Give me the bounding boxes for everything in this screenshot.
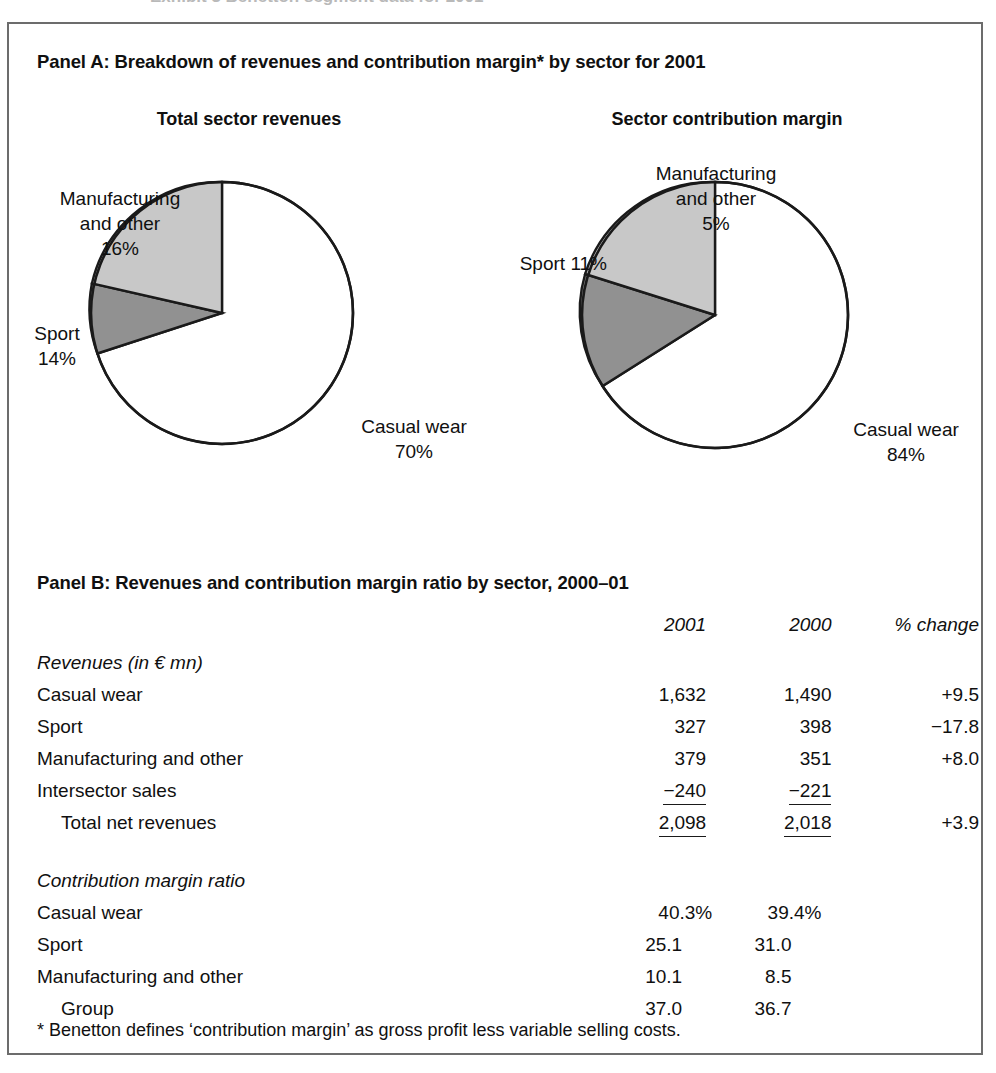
section-header-contribution-margin-ratio: Contribution margin ratio xyxy=(9,870,985,902)
pie-label-casual-wear-left: Casual wear 70% xyxy=(339,414,489,464)
table-row: Casual wear 40.3% 39.4% xyxy=(9,902,985,934)
row-label-casual-wear-cmr: Casual wear xyxy=(9,902,603,934)
pie-chart-sector-contribution-margin: Sector contribution margin Manufacturing… xyxy=(489,109,985,529)
table-row: Sport 327 398 −17.8 xyxy=(9,716,985,748)
segment-data-table: 2001 2000 % change Revenues (in € mn) Ca… xyxy=(9,614,985,1030)
cell-casual-wear-change: +9.5 xyxy=(837,684,985,716)
panel-b-table-area: 2001 2000 % change Revenues (in € mn) Ca… xyxy=(9,614,985,1030)
pie-label-line-1: Casual wear xyxy=(831,417,981,442)
section-label-revenues: Revenues (in € mn) xyxy=(9,652,603,684)
cell-manufacturing-cmr-2001: 10.1 xyxy=(603,966,712,998)
table-row: Manufacturing and other 10.1 8.5 xyxy=(9,966,985,998)
cell-casual-wear-cmr-2001: 40.3% xyxy=(603,902,712,934)
row-label-manufacturing-cmr: Manufacturing and other xyxy=(9,966,603,998)
table-spacer-row xyxy=(9,844,985,870)
cell-total-net-revenues-change: +3.9 xyxy=(837,812,985,844)
column-header-blank xyxy=(9,614,603,652)
cell-manufacturing-change: +8.0 xyxy=(837,748,985,780)
cell-intersector-2001: −240 xyxy=(603,780,712,812)
row-label-casual-wear-revenue: Casual wear xyxy=(9,684,603,716)
cell-casual-wear-2001: 1,632 xyxy=(603,684,712,716)
cell-manufacturing-cmr-2000: 8.5 xyxy=(712,966,837,998)
pie-label-sport-right: Sport 11% xyxy=(459,251,607,276)
pie-label-line-3: 16% xyxy=(15,236,225,261)
pie-label-casual-wear-right: Casual wear 84% xyxy=(831,417,981,467)
column-header-percent-change: % change xyxy=(837,614,985,652)
cell-value: −221 xyxy=(789,780,832,805)
cell-total-net-revenues-2001: 2,098 xyxy=(603,812,712,844)
pie-label-line-1: Casual wear xyxy=(339,414,489,439)
table-header-row: 2001 2000 % change xyxy=(9,614,985,652)
cell-sport-2001: 327 xyxy=(603,716,712,748)
cell-manufacturing-2000: 351 xyxy=(712,748,837,780)
pie-title-sector-contribution-margin: Sector contribution margin xyxy=(479,109,975,130)
pie-label-sport-left: Sport 14% xyxy=(5,321,109,371)
column-header-2000: 2000 xyxy=(712,614,837,652)
pie-label-line-2: 14% xyxy=(5,346,109,371)
pie-label-line-1: Sport 11% xyxy=(459,251,607,276)
cell-sport-cmr-2001: 25.1 xyxy=(603,934,712,966)
pie-label-line-2: and other xyxy=(611,186,821,211)
exhibit-frame: Panel A: Breakdown of revenues and contr… xyxy=(7,22,983,1055)
pie-label-manufacturing-and-other-left: Manufacturing and other 16% xyxy=(15,186,225,261)
row-label-manufacturing-revenue: Manufacturing and other xyxy=(9,748,603,780)
cell-intersector-2000: −221 xyxy=(712,780,837,812)
cell-value: −240 xyxy=(663,780,706,805)
cell-sport-cmr-2000: 31.0 xyxy=(712,934,837,966)
table-row-total: Total net revenues 2,098 2,018 +3.9 xyxy=(9,812,985,844)
cell-sport-change: −17.8 xyxy=(837,716,985,748)
cell-intersector-change xyxy=(837,780,985,812)
row-label-intersector-sales: Intersector sales xyxy=(9,780,603,812)
table-row: Intersector sales −240 −221 xyxy=(9,780,985,812)
pie-chart-total-sector-revenues: Total sector revenues Manufacturing and … xyxy=(9,109,489,529)
row-label-sport-revenue: Sport xyxy=(9,716,603,748)
cell-sport-2000: 398 xyxy=(712,716,837,748)
cell-value: 2,018 xyxy=(784,812,832,837)
row-label-total-net-revenues: Total net revenues xyxy=(9,812,603,844)
table-row: Casual wear 1,632 1,490 +9.5 xyxy=(9,684,985,716)
pie-label-line-1: Manufacturing xyxy=(611,161,821,186)
pie-label-line-2: and other xyxy=(15,211,225,236)
pie-label-line-1: Sport xyxy=(5,321,109,346)
table-row: Sport 25.1 31.0 xyxy=(9,934,985,966)
cell-group-cmr-2000: 36.7 xyxy=(712,998,837,1030)
pie-label-line-3: 5% xyxy=(611,211,821,236)
cell-manufacturing-2001: 379 xyxy=(603,748,712,780)
section-header-revenues: Revenues (in € mn) xyxy=(9,652,985,684)
pie-label-line-1: Manufacturing xyxy=(15,186,225,211)
cell-value: 2,098 xyxy=(659,812,707,837)
panel-a-heading: Panel A: Breakdown of revenues and contr… xyxy=(37,51,705,73)
cell-casual-wear-2000: 1,490 xyxy=(712,684,837,716)
section-label-contribution-margin-ratio: Contribution margin ratio xyxy=(9,870,603,902)
pie-label-line-2: 84% xyxy=(831,442,981,467)
column-header-2001: 2001 xyxy=(603,614,712,652)
panel-b-heading: Panel B: Revenues and contribution margi… xyxy=(37,572,629,594)
row-label-sport-cmr: Sport xyxy=(9,934,603,966)
cell-casual-wear-cmr-2000: 39.4% xyxy=(712,902,837,934)
cell-total-net-revenues-2000: 2,018 xyxy=(712,812,837,844)
pie-label-line-2: 70% xyxy=(339,439,489,464)
footnote-contribution-margin-definition: * Benetton defines ‘contribution margin’… xyxy=(37,1020,681,1041)
pie-title-total-sector-revenues: Total sector revenues xyxy=(9,109,489,130)
cut-off-exhibit-caption: Exhibit 3 Benetton segment data for 2001 xyxy=(150,0,850,7)
table-row: Manufacturing and other 379 351 +8.0 xyxy=(9,748,985,780)
pie-label-manufacturing-and-other-right: Manufacturing and other 5% xyxy=(611,161,821,236)
